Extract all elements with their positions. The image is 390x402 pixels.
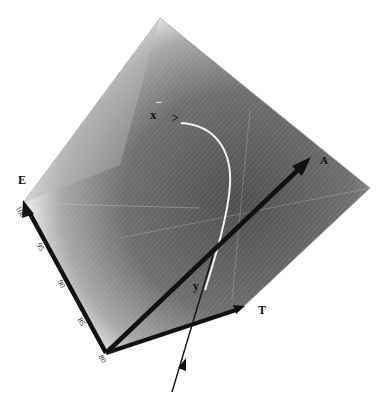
curve-label-caret: > [172, 112, 179, 124]
axis-label-a: A [320, 155, 328, 166]
axis-label-t: T [258, 304, 266, 316]
axis-label-e: E [18, 174, 26, 186]
curve-label-dash: – [156, 96, 162, 107]
cube-body [23, 18, 370, 353]
curve-label-y: y [193, 280, 199, 292]
cube-diagram [0, 0, 390, 402]
curve-label-x: x [150, 108, 157, 121]
